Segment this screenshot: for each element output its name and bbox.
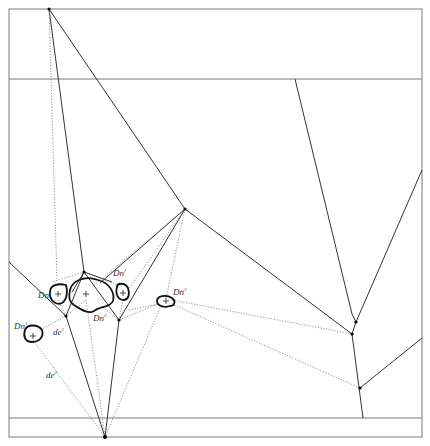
roadmap-diagram: Dn1 Dn1 Dn1 Dn2 Dn3 de1 de2 xyxy=(0,0,430,446)
label-dn1-right: Dn1 xyxy=(112,268,127,278)
label-dn2: Dn2 xyxy=(172,287,187,297)
distance-lines xyxy=(33,9,360,437)
label-dn3: Dn3 xyxy=(92,313,107,323)
label-de2: de2 xyxy=(46,370,58,380)
roadmap-edges xyxy=(9,9,422,437)
label-de1: de1 xyxy=(53,327,64,337)
diagram-frame xyxy=(9,9,422,437)
obstacles xyxy=(24,278,174,342)
obstacle-center-large xyxy=(69,278,113,312)
